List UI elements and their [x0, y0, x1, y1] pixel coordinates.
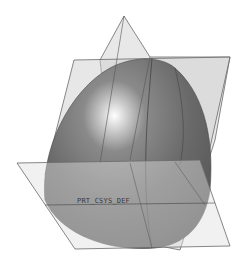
model-graphics[interactable]: [0, 0, 243, 267]
csys-label[interactable]: PRT_CSYS_DEF: [77, 197, 130, 205]
model-viewport[interactable]: PRT_CSYS_DEF: [0, 0, 243, 267]
